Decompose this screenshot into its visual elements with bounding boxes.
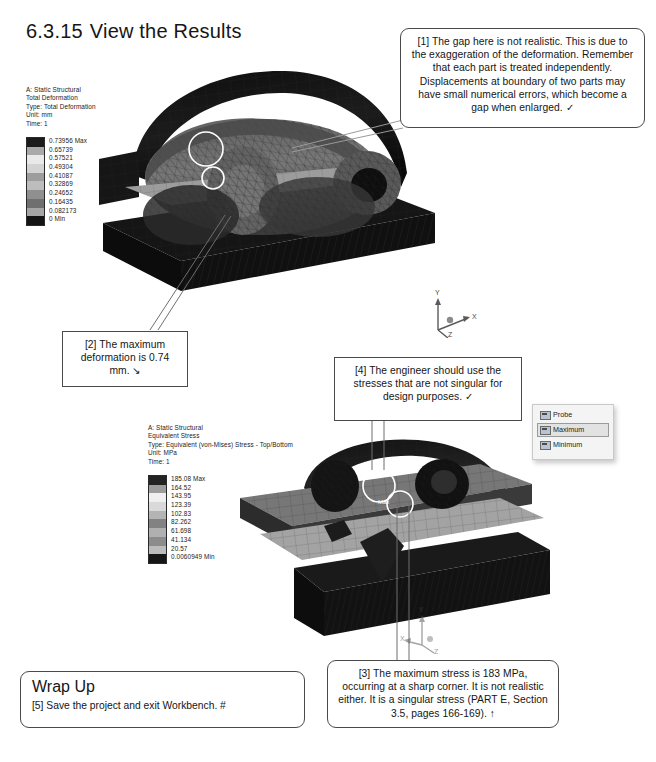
legend-swatch	[149, 537, 166, 546]
legend-value-label: 0.41087	[49, 172, 87, 181]
triad-axes-icon: Y X Z	[424, 286, 486, 338]
legend-value-label: 0.24652	[49, 189, 87, 198]
legend-value-label: 0.32869	[49, 180, 87, 189]
legend-swatch	[27, 190, 44, 199]
result-toolbar-panel[interactable]: Probe Maximum Minimum	[532, 404, 614, 460]
stress-legend-analysis-name: A: Static Structural	[148, 424, 293, 432]
legend-swatch	[27, 155, 44, 164]
deformation-value-labels: 0.73956 Max0.657390.575210.493040.410870…	[49, 137, 87, 226]
legend-value-label: 0.65739	[49, 146, 87, 155]
stress-legend-header: A: Static Structural Equivalent Stress T…	[148, 424, 293, 466]
stress-legend: A: Static Structural Equivalent Stress T…	[148, 424, 293, 564]
callout-1-text: [1] The gap here is not realistic. This …	[409, 35, 636, 114]
toolbar-item-minimum[interactable]: Minimum	[537, 438, 609, 452]
deformation-legend-scale: 0.73956 Max0.657390.575210.493040.410870…	[26, 137, 96, 226]
deformation-legend-header: A: Static Structural Total Deformation T…	[26, 86, 96, 128]
callout-3[interactable]: [3] The maximum stress is 183 MPa, occur…	[327, 660, 559, 728]
stress-legend-scale: 185.08 Max164.52143.95123.39102.8382.262…	[148, 475, 293, 564]
legend-value-label: 0.57521	[49, 154, 87, 163]
legend-value-label: 123.39	[171, 501, 215, 510]
legend-swatch	[27, 138, 44, 147]
legend-unit: Unit: mm	[26, 111, 96, 119]
legend-value-label: 61.698	[171, 527, 215, 536]
wrap-up-body: [5] Save the project and exit Workbench.…	[32, 699, 293, 713]
page-root: 6.3.15View the Results	[0, 0, 656, 762]
callout-4-text: [4] The engineer should use the stresses…	[343, 364, 513, 404]
legend-swatch	[149, 502, 166, 511]
legend-result-name: Total Deformation	[26, 94, 96, 102]
svg-text:Z: Z	[434, 648, 439, 655]
legend-analysis-name: A: Static Structural	[26, 86, 96, 94]
legend-value-label: 185.08 Max	[171, 475, 215, 484]
coordinate-triad-bottom: Y X Z	[400, 603, 462, 659]
maximum-icon	[540, 426, 551, 435]
legend-value-label: 0.082173	[49, 207, 87, 216]
legend-swatch	[27, 164, 44, 173]
svg-text:X: X	[472, 313, 477, 320]
legend-swatch	[27, 208, 44, 217]
toolbar-item-probe-label: Probe	[553, 410, 572, 420]
callout-4[interactable]: [4] The engineer should use the stresses…	[334, 357, 522, 421]
probe-icon	[540, 411, 551, 420]
legend-value-label: 164.52	[171, 484, 215, 493]
legend-swatch	[149, 476, 166, 485]
legend-value-label: 143.95	[171, 492, 215, 501]
stress-legend-time: Time: 1	[148, 458, 293, 466]
stress-legend-result-type: Type: Equivalent (von-Mises) Stress - To…	[148, 441, 293, 449]
legend-swatch	[27, 181, 44, 190]
toolbar-item-maximum[interactable]: Maximum	[537, 423, 609, 437]
legend-value-label: 20.57	[171, 545, 215, 554]
svg-text:Y: Y	[435, 289, 440, 296]
svg-text:Y: Y	[419, 606, 424, 613]
toolbar-item-minimum-label: Minimum	[553, 440, 582, 450]
triad-axes-icon-bottom: Y X Z	[400, 603, 462, 655]
callout-2-text: [2] The maximum deformation is 0.74 mm. …	[71, 338, 179, 378]
svg-text:Z: Z	[448, 331, 453, 338]
legend-time: Time: 1	[26, 120, 96, 128]
minimum-icon	[540, 441, 551, 450]
stress-legend-unit: Unit: MPa	[148, 449, 293, 457]
legend-value-label: 0.73956 Max	[49, 137, 87, 146]
legend-value-label: 0.0060949 Min	[171, 553, 215, 562]
toolbar-item-maximum-label: Maximum	[553, 425, 584, 435]
page-title: 6.3.15View the Results	[26, 20, 242, 43]
legend-swatch	[27, 199, 44, 208]
legend-swatch	[27, 147, 44, 156]
legend-value-label: 0.49304	[49, 163, 87, 172]
legend-value-label: 0.16435	[49, 198, 87, 207]
legend-value-label: 0 Min	[49, 215, 87, 224]
legend-swatch	[149, 519, 166, 528]
section-number: 6.3.15	[26, 20, 83, 42]
legend-swatch	[149, 554, 166, 563]
coordinate-triad-top: Y X Z	[424, 286, 486, 342]
callout-2[interactable]: [2] The maximum deformation is 0.74 mm. …	[62, 331, 188, 387]
stress-color-bar	[148, 475, 167, 564]
stress-legend-result-name: Equivalent Stress	[148, 432, 293, 440]
legend-swatch	[149, 511, 166, 520]
legend-swatch	[27, 216, 44, 225]
toolbar-item-probe[interactable]: Probe	[537, 408, 609, 422]
legend-swatch	[27, 173, 44, 182]
section-title-text: View the Results	[90, 20, 242, 42]
wrap-up-title: Wrap Up	[32, 677, 293, 697]
legend-value-label: 82.262	[171, 518, 215, 527]
stress-value-labels: 185.08 Max164.52143.95123.39102.8382.262…	[171, 475, 215, 564]
deformation-legend: A: Static Structural Total Deformation T…	[26, 86, 96, 226]
legend-swatch	[149, 528, 166, 537]
legend-value-label: 102.83	[171, 510, 215, 519]
legend-swatch	[149, 485, 166, 494]
callout-1[interactable]: [1] The gap here is not realistic. This …	[400, 28, 645, 128]
svg-text:X: X	[400, 635, 405, 642]
legend-result-type: Type: Total Deformation	[26, 103, 96, 111]
deformation-color-bar	[26, 137, 45, 226]
wrap-up-box[interactable]: Wrap Up [5] Save the project and exit Wo…	[20, 671, 305, 728]
legend-swatch	[149, 546, 166, 555]
callout-3-text: [3] The maximum stress is 183 MPa, occur…	[336, 667, 550, 720]
legend-swatch	[149, 493, 166, 502]
legend-value-label: 41.134	[171, 536, 215, 545]
